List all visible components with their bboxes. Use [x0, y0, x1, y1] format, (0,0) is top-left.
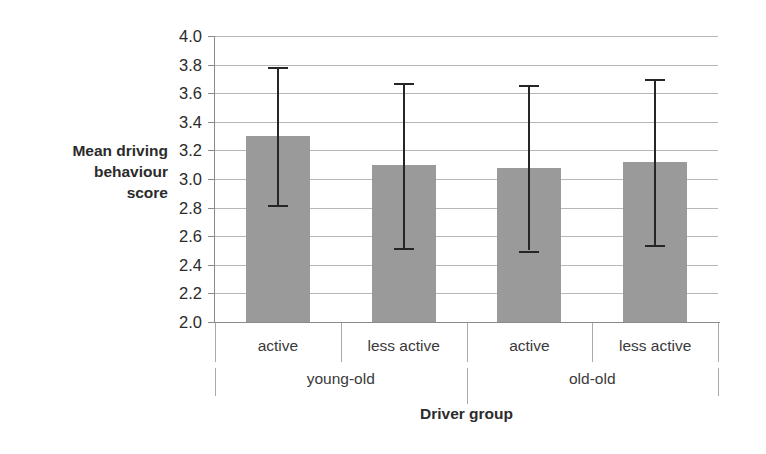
x-axis-category-label: less active: [341, 323, 467, 368]
y-axis-tick-labels: 4.03.83.63.43.23.02.82.62.42.22.0: [150, 0, 202, 454]
plot-area: [215, 36, 718, 322]
x-axis-category-labels: activeless activeactiveless active: [215, 323, 718, 368]
y-axis-tick-mark: [208, 36, 215, 37]
error-bar-cap-upper: [394, 83, 414, 85]
y-axis-tick-label: 2.8: [150, 200, 202, 216]
y-axis-tick-label: 4.0: [150, 28, 202, 44]
y-axis-tick-mark: [208, 93, 215, 94]
error-bar-cap-upper: [268, 67, 288, 69]
y-axis-title-line-2: behaviour: [20, 161, 168, 182]
x-axis-group-labels: young-oldold-old: [215, 368, 718, 410]
error-bar-cap-lower: [519, 251, 539, 253]
x-axis-title: Driver group: [215, 405, 718, 423]
error-bar-line: [277, 67, 279, 204]
error-bar-cap-lower: [645, 245, 665, 247]
x-axis-category-label: less active: [592, 323, 718, 368]
y-axis-tick-mark: [208, 322, 215, 323]
x-axis-category-label: active: [215, 323, 341, 368]
y-axis-tick-label: 3.8: [150, 57, 202, 73]
x-axis-category-label: active: [467, 323, 593, 368]
bar-chart-figure: Mean driving behaviour score 4.03.83.63.…: [0, 0, 766, 454]
x-axis-group-label: young-old: [215, 368, 467, 410]
y-axis-tick-label: 2.2: [150, 285, 202, 301]
y-axis-title-line-3: score: [20, 182, 168, 203]
gridline: [215, 36, 718, 37]
gridline: [215, 65, 718, 66]
y-axis-tick-mark: [208, 150, 215, 151]
error-bar-cap-lower: [394, 248, 414, 250]
y-axis-tick-label: 3.2: [150, 142, 202, 158]
y-axis-tick-mark: [208, 179, 215, 180]
y-axis-tick-mark: [208, 236, 215, 237]
y-axis-title: Mean driving behaviour score: [20, 140, 168, 203]
y-axis-title-line-1: Mean driving: [20, 140, 168, 161]
error-bar-line: [654, 79, 656, 245]
y-axis-tick-mark: [208, 122, 215, 123]
y-axis-tick-label: 3.6: [150, 85, 202, 101]
x-axis-group-label: old-old: [467, 368, 719, 410]
category-row-left-edge: [215, 323, 216, 362]
y-axis-tick-mark: [208, 65, 215, 66]
gridline: [215, 122, 718, 123]
error-bar-cap-upper: [645, 79, 665, 81]
group-row-right-edge: [718, 368, 719, 396]
y-axis-tick-mark: [208, 265, 215, 266]
error-bar-cap-lower: [268, 205, 288, 207]
error-bar-cap-upper: [519, 85, 539, 87]
category-row-right-edge: [718, 323, 719, 362]
gridline: [215, 93, 718, 94]
y-axis-tick-label: 3.0: [150, 171, 202, 187]
y-axis-tick-mark: [208, 293, 215, 294]
y-axis-tick-label: 2.0: [150, 314, 202, 330]
error-bar-line: [528, 85, 530, 251]
y-axis-tick-mark: [208, 208, 215, 209]
error-bar-line: [403, 83, 405, 247]
group-row-left-edge: [215, 368, 216, 396]
y-axis-tick-label: 2.4: [150, 257, 202, 273]
y-axis-tick-label: 2.6: [150, 228, 202, 244]
y-axis-tick-label: 3.4: [150, 114, 202, 130]
